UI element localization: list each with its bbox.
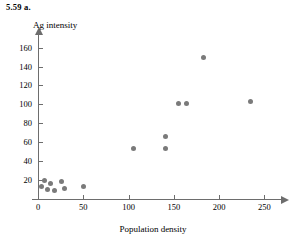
data-point: [201, 55, 206, 60]
data-point: [248, 99, 253, 104]
y-axis-tick: [38, 104, 43, 105]
x-axis-tick-label: 250: [249, 203, 279, 212]
y-axis-tick-label: 100: [4, 100, 32, 109]
x-axis-tick: [174, 195, 175, 200]
figure-container: 5.59 a. Ag intensity Population density …: [0, 0, 306, 246]
data-point: [131, 146, 136, 151]
data-point: [48, 181, 53, 186]
x-axis-tick-label: 200: [204, 203, 234, 212]
y-axis-tick-label: 120: [4, 81, 32, 90]
y-axis-tick-label: 80: [4, 119, 32, 128]
x-axis-tick-label: 50: [68, 203, 98, 212]
data-point: [163, 134, 168, 139]
y-axis-tick-label: 20: [4, 176, 32, 185]
data-point: [39, 184, 44, 189]
y-axis-tick: [38, 123, 43, 124]
data-point: [184, 101, 189, 106]
y-axis-title: Ag intensity: [33, 20, 77, 30]
y-axis-tick: [38, 161, 43, 162]
data-point: [62, 186, 67, 191]
x-axis-line: [32, 199, 282, 200]
y-axis-line: [38, 34, 39, 199]
data-point: [81, 184, 86, 189]
data-point: [163, 146, 168, 151]
data-point: [45, 187, 50, 192]
x-axis-tick-label: 0: [23, 203, 53, 212]
x-axis-tick: [129, 195, 130, 200]
y-axis-tick: [38, 67, 43, 68]
data-point: [59, 179, 64, 184]
x-axis-tick: [38, 195, 39, 200]
x-axis-tick: [219, 195, 220, 200]
y-axis-tick: [38, 85, 43, 86]
y-axis-tick-label: 140: [4, 63, 32, 72]
y-axis-tick-label: 60: [4, 138, 32, 147]
x-axis-tick-label: 150: [159, 203, 189, 212]
x-axis-arrow-icon: [281, 196, 289, 204]
x-axis-tick-label: 100: [114, 203, 144, 212]
y-axis-tick: [38, 142, 43, 143]
data-point: [52, 188, 57, 193]
y-axis-tick-label: 160: [4, 44, 32, 53]
y-axis-tick: [38, 48, 43, 49]
x-axis-tick: [264, 195, 265, 200]
x-axis-tick: [83, 195, 84, 200]
scatter-plot: Ag intensity Population density 20406080…: [0, 0, 306, 246]
data-point: [176, 101, 181, 106]
y-axis-tick-label: 40: [4, 157, 32, 166]
x-axis-title: Population density: [0, 224, 306, 234]
data-point: [42, 178, 47, 183]
